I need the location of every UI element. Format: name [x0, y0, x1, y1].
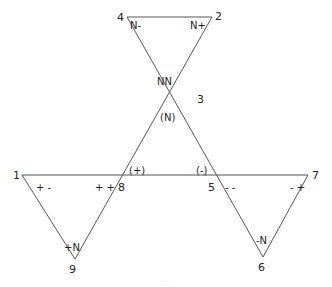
angle-label-minus-plus: - +	[290, 183, 305, 193]
angle-label-plus-plus: + +	[95, 183, 115, 193]
edge-4-6	[127, 17, 263, 257]
node-label-3: 3	[197, 94, 204, 105]
node-label-7: 7	[312, 170, 319, 181]
node-label-1: 1	[13, 170, 20, 181]
node-label-2: 2	[215, 11, 222, 22]
node-label-8: 8	[118, 182, 125, 193]
node-label-4: 4	[117, 12, 124, 23]
edge-2-9	[75, 17, 212, 259]
triangle-diagram	[0, 0, 332, 287]
node-label-9: 9	[69, 264, 76, 275]
figure-caption: ...	[0, 276, 332, 284]
angle-label-n-plus: N+	[190, 21, 206, 31]
angle-label-paren-plus: (+)	[129, 166, 145, 176]
node-label-5: 5	[208, 182, 215, 193]
angle-label-plus-minus: + -	[36, 183, 51, 193]
angle-label-nn: NN	[157, 77, 172, 87]
angle-label-paren-minus: (-)	[196, 166, 207, 176]
angle-label-paren-n: (N)	[160, 113, 175, 123]
node-label-6: 6	[258, 262, 265, 273]
angle-label-n-minus: N-	[130, 21, 141, 31]
angle-label-plus-n: +N	[64, 243, 80, 253]
angle-label-minus-n: -N	[256, 236, 267, 246]
angle-label-minus-minus: - -	[225, 183, 235, 193]
